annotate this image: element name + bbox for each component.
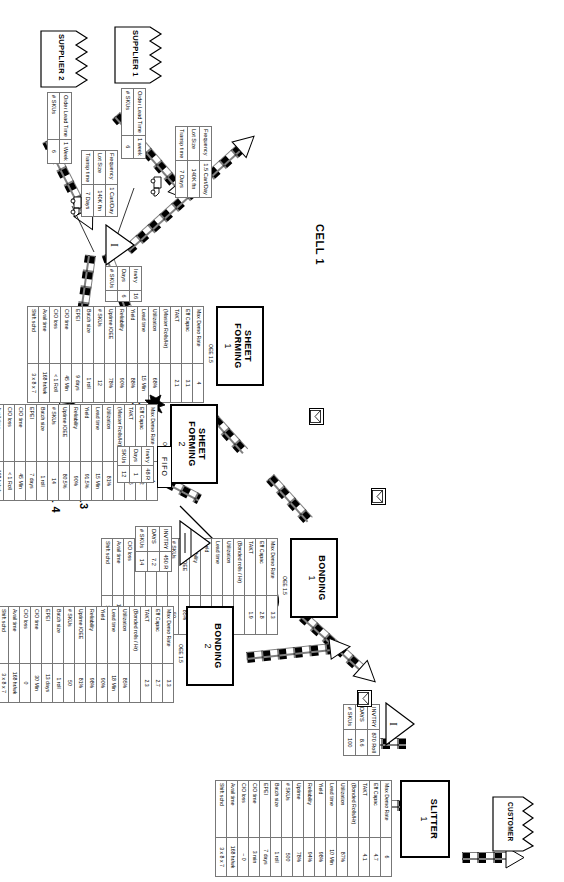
cell-value: 500 [282, 838, 293, 877]
cell-key: # SKUs [122, 89, 134, 136]
table-row: C/O time45 Min [15, 405, 26, 501]
cell-key: Days [118, 267, 130, 291]
cell-key: Utilization [337, 781, 348, 838]
cell-key: Batch size [271, 781, 282, 838]
cell-key: Uptime [293, 781, 304, 838]
cell-key: Invtry [142, 447, 154, 466]
table-row: Reliability90% [116, 307, 127, 403]
cell-value: 3.3 [163, 664, 174, 703]
cell-value: 30 Min [31, 664, 42, 703]
cell-key: Max Demo Rate [381, 781, 392, 838]
process-box-sheet-forming-1[interactable]: SHEET FORMING 1 [216, 306, 264, 386]
table-row: Max Demo Rate3.3 [267, 539, 278, 635]
table-row: Order Lead Time 1 Week [60, 93, 72, 164]
customer-house [492, 796, 536, 852]
cell-value: 6 [381, 838, 392, 877]
vsm-page: SUPPLIER 1 Order Lead Time 1 week # SKUs… [0, 0, 564, 882]
cell-key: # SKUs [48, 93, 60, 140]
process-number: 2 [196, 608, 213, 684]
table-row: # SKUs12 [94, 307, 105, 403]
table-row: Utilization81% [103, 405, 114, 501]
cell-value: 1 roll [37, 462, 48, 501]
process-box-slitter[interactable]: SLITTER 1 [400, 780, 450, 858]
table-row: TAKT1.9 [245, 539, 256, 635]
mail-icon-sf1[interactable] [309, 408, 324, 425]
table-row: Frequency 1.5 Cart/Day [200, 127, 212, 198]
table-row: Utilization68% [149, 307, 160, 403]
cell-value: 4 [193, 364, 204, 403]
supplier-1-shipping-table: Frequency 1.5 Cart/Day Lot Size 140K ftn… [175, 126, 212, 198]
customer-label: CUSTOMER [507, 802, 514, 841]
cell-key: Max Demo Rate [267, 539, 278, 596]
table-row: # SKUs500 [282, 781, 293, 877]
cell-key: Max Demo Rate [163, 607, 174, 664]
table-row: # SKUs 100 [344, 705, 356, 756]
mail-icon-bonding1[interactable] [371, 488, 386, 505]
cell-value: 81% [75, 664, 86, 703]
table-row: DAYS 7.2 [148, 527, 160, 572]
cell-key: Lead time [108, 607, 119, 664]
cell-value: 81% [103, 462, 114, 501]
table-row: Avail time168 hr/wk [39, 307, 50, 403]
table-row: Batch size1 roll [271, 781, 282, 877]
cell-value: 13 days [42, 664, 53, 703]
process-number: 1 [412, 782, 429, 856]
table-row: Utilization87% [337, 781, 348, 877]
table-row: SKUs 12 [118, 447, 130, 483]
table-row: C/O loss0 [20, 607, 31, 703]
process-name: SHEET FORMING [233, 308, 262, 384]
table-row: INVTRY 870 Roll [368, 705, 380, 756]
table-row: EPEI7 days [260, 781, 271, 877]
cell-key: Eff Capac [152, 607, 163, 664]
table-row: Eff Capac4.7 [370, 781, 381, 877]
cell-value: 7 days [26, 462, 37, 501]
cell-value: 168 hr/wk [0, 462, 4, 501]
table-row: (Bonded rolls / Hr) [234, 539, 245, 635]
cell-value: 1 week [134, 135, 146, 158]
cell-value: 168 hr/wk [9, 664, 20, 703]
table-row: Transp time 7 Days [176, 127, 188, 198]
cell-value: 85% [119, 664, 130, 703]
cell-value: 168 hr/wk [39, 364, 50, 403]
cell-value: 4.1 [359, 838, 370, 877]
table-row: (Master Rolls/Hr) [160, 307, 171, 403]
process-name: SLITTER [429, 782, 448, 856]
cell-value: 3 x 8 x 7 [28, 364, 39, 403]
table-row: Max Demo Rate3.3 [163, 607, 174, 703]
cell-key: Avail time [39, 307, 50, 364]
cell-key: (Bonded rolls / Hr) [234, 539, 245, 596]
cell-value: 10 Min [326, 838, 337, 877]
cell-key: (Master Rolls/Hr) [160, 307, 171, 364]
cell-key: C/O time [249, 781, 260, 838]
process-box-bonding-2[interactable]: BONDING 2 [186, 606, 234, 686]
mail-icon-slitter[interactable] [357, 690, 372, 707]
table-row: Lead time10 Min [326, 781, 337, 877]
cell-key: Lead time [138, 307, 149, 364]
table-row: # SKUs50 [64, 607, 75, 703]
process-box-bonding-1[interactable]: BONDING 1 [290, 538, 338, 618]
cell-key: Lead time [326, 781, 337, 838]
table-row: # SKUs 6 [48, 93, 60, 164]
cell-key: EPEI [42, 607, 53, 664]
process-box-sheet-forming-2[interactable]: SHEET FORMING 2 [170, 404, 218, 484]
cell-key: C/O loss [4, 405, 15, 462]
cell-value [234, 596, 245, 635]
cell-value: 80.5% [59, 462, 70, 501]
data-table-sheet-forming-1: Max Demo Rate4Eff Capac3.1TAKT2.1(Master… [27, 306, 204, 403]
cell-key: C/O time [15, 405, 26, 462]
cell-value: 1 roll [271, 838, 282, 877]
cell-value: 45 Min [61, 364, 72, 403]
cell-key: # SKUs [282, 781, 293, 838]
table-row: C/O time3 min [249, 781, 260, 877]
cell-key: Reliability [70, 405, 81, 462]
cell-key: Avail time [227, 781, 238, 838]
cell-label-cell1: CELL 1 [314, 224, 326, 265]
cell-key: Uptime /OEE [105, 307, 116, 364]
cell-value: 1 [130, 466, 142, 483]
cell-value: 12 [94, 364, 105, 403]
cell-key: Eff Capac [370, 781, 381, 838]
cell-value: 6 [122, 135, 134, 158]
cell-value: 140K ftn [188, 161, 200, 197]
cell-value: 3 x 8 x 7 [216, 838, 227, 877]
supplier-1-label: SUPPLIER 1 [131, 30, 140, 77]
